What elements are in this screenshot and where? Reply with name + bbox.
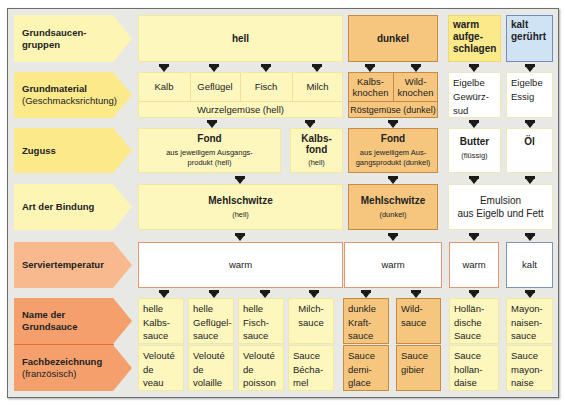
cell-text: Fisch- <box>243 316 269 330</box>
cell-text: volaille <box>193 376 222 390</box>
label-text: Grundsauce <box>22 321 77 332</box>
cell-text: Sauce <box>348 349 375 363</box>
cell-text: knochen <box>398 87 434 98</box>
cell-text: Eigelbe <box>511 76 543 90</box>
cell-text: Sauce <box>293 349 320 363</box>
fachbezeichnung-cell: Veloutédeveau <box>138 345 184 391</box>
bindung-emulsion: Emulsion aus Eigelb und Fett <box>448 184 553 230</box>
group-text: dunkel <box>377 33 409 45</box>
divider <box>292 73 293 101</box>
cell-text: Eigelbe <box>453 76 485 90</box>
cell-subtext: (hell) <box>308 158 325 168</box>
cell-text: dische <box>454 316 481 330</box>
cell-text: Milch- <box>298 302 323 316</box>
cell-text: poisson <box>243 376 276 390</box>
grundmaterial-warm: Eigelbe Gewürz- sud <box>448 72 501 118</box>
servier-kalt: kalt <box>506 242 553 288</box>
cell-subtext: gangsprodukt (dunkel) <box>356 158 431 168</box>
grundmaterial-wurzelgemuese: Wurzelgemüse (hell) <box>138 101 343 118</box>
cell-text: warm <box>381 259 404 271</box>
grundmaterial-kalt: Eigelbe Essig <box>506 72 553 118</box>
cell-text: Sauce <box>401 349 428 363</box>
cell-text: Kalb <box>154 81 173 93</box>
cell-title: Butter <box>460 136 489 148</box>
cell-text: Sauce <box>511 349 538 363</box>
arrow-down-icon <box>389 236 397 241</box>
cell-text: hollan- <box>454 363 483 377</box>
cell-text: Velouté <box>193 349 225 363</box>
cell-text: Kalbs- <box>357 76 384 87</box>
cell-text: sauce <box>511 329 536 343</box>
row-label-fachbezeichnung: Fachbezeichnung(französisch) <box>14 345 132 391</box>
cell-text: aus Eigelb und Fett <box>457 207 543 220</box>
divider <box>240 73 241 101</box>
cell-text: knochen <box>353 87 389 98</box>
cell-text: mayon- <box>511 363 543 377</box>
sauce-name-cell: Mayon-naisen-sauce <box>506 298 553 344</box>
cell-text: de <box>193 363 204 377</box>
cell-text: Velouté <box>243 349 275 363</box>
cell-text: glace <box>348 376 371 390</box>
group-dunkel: dunkel <box>348 15 438 62</box>
label-text: Serviertemperatur <box>22 259 104 271</box>
sauce-name-cell: Hollän-discheSauce <box>449 298 499 344</box>
cell-title: Fond <box>381 133 405 145</box>
row-label-grundmaterial: Grundmaterial(Geschmacksrichtung) <box>14 72 132 118</box>
cell-text: sauce <box>348 329 373 343</box>
group-hell: hell <box>138 15 343 62</box>
cell-text: gibier <box>401 363 424 377</box>
cell-subtext: (hell) <box>232 210 249 220</box>
label-text: Name der <box>22 309 65 320</box>
cell-text: Hollän- <box>454 302 484 316</box>
cell-text: demi- <box>348 363 372 377</box>
cell-text: Essig <box>511 90 534 104</box>
cell-text: Emulsion <box>480 194 521 207</box>
cell-subtext: produkt (hell) <box>188 158 232 168</box>
label-subtext: (französisch) <box>22 368 76 379</box>
arrow-down-icon <box>236 236 244 241</box>
cell-text: helle <box>243 302 263 316</box>
cell-text: naisen- <box>511 316 542 330</box>
cell-text: helle <box>143 302 163 316</box>
zuguss-fond-hell: Fond aus jeweiligem Ausgangs- produkt (h… <box>138 128 281 173</box>
cell-text: Wild- <box>405 76 427 87</box>
cell-text: Wurzelgemüse (hell) <box>197 104 284 116</box>
cell-text: Sauce <box>454 349 481 363</box>
cell-text: veau <box>143 376 164 390</box>
cell-text: de <box>143 363 154 377</box>
group-kalt-geruehrt: kalt gerührt <box>506 15 553 62</box>
bindung-mehlschwitze-dunkel: Mehlschwitze (dunkel) <box>348 184 438 230</box>
cell-text: Milch <box>306 81 328 93</box>
fachbezeichnung-cell: Saucemayon-naise <box>506 345 553 391</box>
cell-title: Fond <box>197 133 221 145</box>
cell-title: Mehlschwitze <box>361 195 425 207</box>
cell-subtext: (dunkel) <box>379 210 406 220</box>
cell-text: sauce <box>298 316 323 330</box>
cell-text: Wild- <box>401 302 423 316</box>
row-label-zuguss: Zuguss <box>14 128 132 173</box>
label-text: Zuguss <box>22 145 56 157</box>
fachbezeichnung-cell: SauceBécha-mel <box>288 345 334 391</box>
cell-subtext: aus jeweiligem Ausgangs- <box>166 148 253 158</box>
cell-text: Geflügel- <box>193 316 232 330</box>
cell-text: sauce <box>401 316 426 330</box>
sauce-name-cell: dunkleKraft-sauce <box>343 298 389 344</box>
fachbezeichnung-cell: Saucedemi-glace <box>343 345 389 391</box>
label-text: Grundmaterial <box>22 83 87 94</box>
label-text: gruppen <box>22 39 60 50</box>
zuguss-oel: Öl <box>506 128 553 173</box>
grundmaterial-kalb: Kalb <box>138 72 190 101</box>
zuguss-kalbsfond: Kalbs- fond (hell) <box>290 128 343 173</box>
label-subtext: (Geschmacksrichtung) <box>22 95 117 106</box>
cell-text: Röstgemüse (dunkel) <box>350 104 436 116</box>
cell-text: Sauce <box>454 329 481 343</box>
cell-text: Kraft- <box>348 316 371 330</box>
cell-text: de <box>243 363 254 377</box>
row-label-serviertemperatur: Serviertemperatur <box>14 242 132 288</box>
cell-title: Kalbs- <box>301 133 332 144</box>
cell-text: Velouté <box>143 349 175 363</box>
cell-subtext: aus jeweiligem Aus- <box>360 148 426 158</box>
cell-text: Geflügel <box>197 81 232 93</box>
label-divider <box>14 344 114 345</box>
group-text: schlagen <box>453 43 496 55</box>
